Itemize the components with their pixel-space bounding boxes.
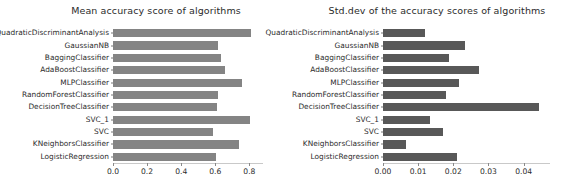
bar-row: AdaBoostClassifier [113, 64, 263, 76]
chart-panel-std-dev: Std.dev of the accuracy scores of algori… [284, 0, 568, 194]
y-axis-label: AdaBoostClassifier [310, 67, 379, 74]
bar-row: AdaBoostClassifier [383, 64, 550, 76]
bar-row: SVC [113, 126, 263, 138]
bar-logisticregression [383, 153, 457, 161]
y-axis-label: SVC_1 [86, 116, 109, 123]
y-axis-label: GaussianNB [334, 42, 379, 49]
y-axis-label: DecisionTreeClassifier [28, 104, 109, 111]
bar-gaussiannb [383, 41, 465, 49]
y-axis-label: LogisticRegression [310, 153, 379, 160]
x-axis-tick [383, 163, 384, 166]
bar-gaussiannb [113, 41, 218, 49]
y-axis-label: SVC [94, 128, 109, 135]
bar-logisticregression [113, 153, 216, 161]
y-axis-label: SVC_1 [356, 116, 379, 123]
bar-row: RandomForestClassifier [113, 89, 263, 101]
y-axis-label: RandomForestClassifier [292, 91, 379, 98]
bar-row: BaggingClassifier [113, 52, 263, 64]
x-axis-tick [524, 163, 525, 166]
x-axis-tick-label: 0.0 [107, 167, 119, 176]
x-axis-tick [181, 163, 182, 166]
bar-rows-mean-accuracy: QuadraticDiscriminantAnalysisGaussianNBB… [113, 27, 263, 163]
x-axis-tick [488, 163, 489, 166]
x-axis-tick-label: 0.4 [175, 167, 187, 176]
bar-adaboostclassifier [383, 66, 479, 74]
bar-row: LogisticRegression [113, 151, 263, 163]
bar-svc [113, 128, 213, 136]
bar-svc [383, 128, 443, 136]
x-axis-tick [418, 163, 419, 166]
bar-baggingclassifier [113, 54, 221, 62]
bar-randomforestclassifier [383, 91, 446, 99]
bar-row: QuadraticDiscriminantAnalysis [113, 27, 263, 39]
bar-row: LogisticRegression [383, 151, 550, 163]
figure-canvas: Mean accuracy score of algorithms Quadra… [0, 0, 568, 194]
bar-quadraticdiscriminantanalysis [113, 29, 251, 37]
bar-row: BaggingClassifier [383, 52, 550, 64]
y-axis-label: BaggingClassifier [315, 54, 379, 61]
bar-rows-std-dev: QuadraticDiscriminantAnalysisGaussianNBB… [383, 27, 550, 163]
bar-row: SVC_1 [383, 114, 550, 126]
x-axis-tick-label: 0.03 [480, 167, 497, 176]
y-axis-label: LogisticRegression [40, 153, 109, 160]
plot-area-mean-accuracy: QuadraticDiscriminantAnalysisGaussianNBB… [113, 27, 263, 163]
bar-row: RandomForestClassifier [383, 89, 550, 101]
bar-row: SVC_1 [113, 114, 263, 126]
bar-decisiontreeclassifier [113, 103, 217, 111]
x-axis-tick-label: 0.6 [209, 167, 221, 176]
y-axis-label: KNeighborsClassifier [303, 141, 379, 148]
y-axis-label: GaussianNB [64, 42, 109, 49]
bar-kneighborsclassifier [383, 140, 406, 148]
y-axis-label: QuadraticDiscriminantAnalysis [265, 29, 379, 36]
y-axis-label: BaggingClassifier [45, 54, 109, 61]
x-axis-tick-label: 0.04 [515, 167, 532, 176]
y-axis-label: SVC [364, 128, 379, 135]
x-axis-tick-label: 0.01 [410, 167, 427, 176]
bar-adaboostclassifier [113, 66, 225, 74]
bar-row: DecisionTreeClassifier [113, 101, 263, 113]
x-axis-tick-label: 0.02 [445, 167, 462, 176]
y-axis-label: RandomForestClassifier [22, 91, 109, 98]
x-axis-tick [215, 163, 216, 166]
bar-randomforestclassifier [113, 91, 218, 99]
bar-baggingclassifier [383, 54, 449, 62]
bar-row: MLPClassifier [383, 76, 550, 88]
y-axis-label: QuadraticDiscriminantAnalysis [0, 29, 109, 36]
y-axis-label: DecisionTreeClassifier [298, 104, 379, 111]
y-axis-label: AdaBoostClassifier [40, 67, 109, 74]
x-axis-tick-label: 0.2 [141, 167, 153, 176]
bar-row: QuadraticDiscriminantAnalysis [383, 27, 550, 39]
x-axis-line-mean-accuracy [113, 163, 263, 164]
bar-row: SVC [383, 126, 550, 138]
bar-row: MLPClassifier [113, 76, 263, 88]
x-axis-tick-label: 0.8 [243, 167, 255, 176]
bar-svc_1 [383, 116, 430, 124]
bar-quadraticdiscriminantanalysis [383, 29, 425, 37]
x-axis-line-std-dev [383, 163, 550, 164]
bar-row: KNeighborsClassifier [113, 138, 263, 150]
bar-mlpclassifier [113, 79, 242, 87]
bar-svc_1 [113, 116, 250, 124]
chart-panel-mean-accuracy: Mean accuracy score of algorithms Quadra… [0, 0, 284, 194]
bar-row: DecisionTreeClassifier [383, 101, 550, 113]
x-axis-tick [113, 163, 114, 166]
x-axis-tick-label: 0.00 [375, 167, 392, 176]
y-axis-label: KNeighborsClassifier [33, 141, 109, 148]
y-axis-label: MLPClassifier [330, 79, 379, 86]
plot-area-std-dev: QuadraticDiscriminantAnalysisGaussianNBB… [383, 27, 550, 163]
x-axis-tick [147, 163, 148, 166]
bar-row: GaussianNB [383, 39, 550, 51]
bar-kneighborsclassifier [113, 140, 239, 148]
x-axis-tick [249, 163, 250, 166]
bar-mlpclassifier [383, 79, 459, 87]
y-axis-label: MLPClassifier [60, 79, 109, 86]
chart-title-std-dev: Std.dev of the accuracy scores of algori… [284, 5, 568, 16]
bar-row: GaussianNB [113, 39, 263, 51]
chart-title-mean-accuracy: Mean accuracy score of algorithms [0, 5, 284, 16]
bar-decisiontreeclassifier [383, 103, 539, 111]
bar-row: KNeighborsClassifier [383, 138, 550, 150]
x-axis-tick [453, 163, 454, 166]
